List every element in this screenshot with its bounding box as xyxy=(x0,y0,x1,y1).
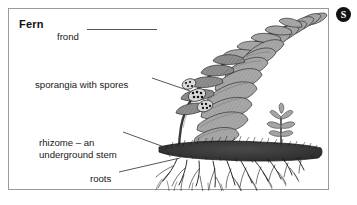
label-roots: roots xyxy=(90,173,111,185)
leader-rhizome xyxy=(123,132,167,148)
label-sporangia: sporangia with spores xyxy=(35,79,128,91)
page-root: S xyxy=(0,0,357,205)
page-title: Fern xyxy=(19,18,44,30)
roots-part xyxy=(156,158,304,191)
label-rhizome-line-1: rhizome – an xyxy=(39,137,117,149)
label-frond: frond xyxy=(57,31,79,43)
label-rhizome-line-2: underground stem xyxy=(39,149,117,161)
label-rhizome: rhizome – an underground stem xyxy=(39,137,117,161)
frond-part xyxy=(176,13,327,155)
diagram-frame: Fern frond sporangia with spores rhizome… xyxy=(8,8,329,190)
new-shoot-part xyxy=(267,103,295,149)
section-badge: S xyxy=(336,7,351,22)
